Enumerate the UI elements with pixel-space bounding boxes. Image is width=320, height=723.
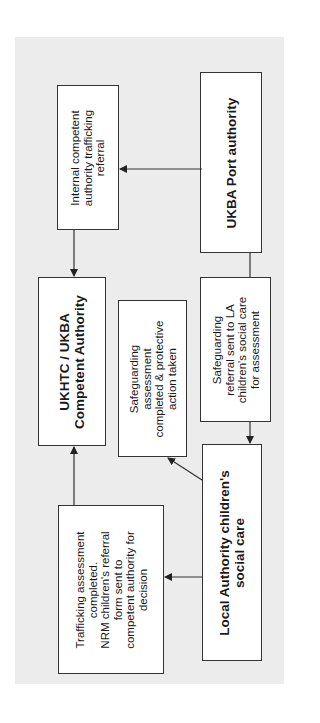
node-label: NRM children's referral xyxy=(99,531,112,649)
node-label: referral xyxy=(94,109,107,205)
node-label: Safeguarding xyxy=(128,320,141,437)
node-label: completed & protective xyxy=(153,320,166,437)
node-label: Competent Authority xyxy=(72,295,87,429)
node-label: UKHTC / UKBA xyxy=(57,295,72,429)
node-local-authority-text: Local Authority children's social care xyxy=(217,470,247,635)
node-safeguarding-referral: Safeguarding referral sent to LA childre… xyxy=(200,277,271,422)
node-label: Trafficking assessment xyxy=(74,531,87,649)
node-label: assessment xyxy=(140,320,153,437)
node-label: Safeguarding xyxy=(211,296,224,402)
node-label: competent authority for xyxy=(124,531,137,649)
node-trafficking-assessment: Trafficking assessment completed. NRM ch… xyxy=(58,505,164,674)
node-label: authority trafficking xyxy=(82,109,95,205)
node-trafficking-assessment-text: Trafficking assessment completed. NRM ch… xyxy=(74,531,149,649)
node-local-authority: Local Authority children's social care xyxy=(202,444,262,661)
node-safeguarding-referral-text: Safeguarding referral sent to LA childre… xyxy=(211,296,261,402)
node-label: children's social care xyxy=(236,296,249,402)
node-internal-referral: Internal competent authority trafficking… xyxy=(57,85,119,230)
node-safeguarding-assessment: Safeguarding assessment completed & prot… xyxy=(118,300,187,457)
node-label: decision xyxy=(136,531,149,649)
node-port-authority-text: UKBA Port authority xyxy=(224,97,239,228)
node-label: Local Authority children's xyxy=(217,470,232,635)
node-label: completed. xyxy=(86,531,99,649)
node-label: referral sent to LA xyxy=(223,296,236,402)
node-competent-authority-text: UKHTC / UKBA Competent Authority xyxy=(57,295,87,429)
node-port-authority: UKBA Port authority xyxy=(200,72,262,253)
node-label: UKBA Port authority xyxy=(224,97,239,228)
node-internal-referral-text: Internal competent authority trafficking… xyxy=(69,109,107,205)
node-competent-authority: UKHTC / UKBA Competent Authority xyxy=(38,277,106,446)
node-label: action taken xyxy=(165,320,178,437)
node-label: Internal competent xyxy=(69,109,82,205)
node-safeguarding-assessment-text: Safeguarding assessment completed & prot… xyxy=(128,320,178,437)
node-label: for assessment xyxy=(248,296,261,402)
node-label: form sent to xyxy=(111,531,124,649)
node-label: social care xyxy=(232,470,247,635)
